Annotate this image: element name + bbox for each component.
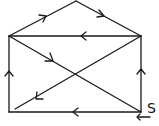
edge-roof-right bbox=[76, 1, 141, 36]
edge-roof-left bbox=[9, 1, 76, 36]
diagram-graphic bbox=[0, 0, 159, 126]
edge-diagonal-tr-bl bbox=[15, 36, 141, 109]
start-label: S bbox=[147, 101, 156, 115]
envelope-diagram: S bbox=[0, 0, 159, 126]
